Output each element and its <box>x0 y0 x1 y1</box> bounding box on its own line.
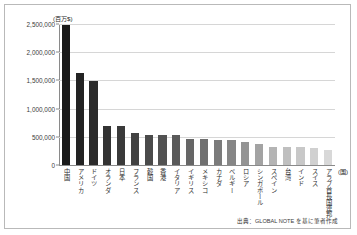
x-axis-category-label: スペイン <box>269 168 276 224</box>
bar <box>172 135 180 165</box>
bar <box>76 73 84 165</box>
x-axis-category-label: オランダ <box>104 168 111 224</box>
bar-slot <box>294 24 308 165</box>
x-axis-label-slot: イタリア <box>169 168 183 224</box>
x-axis-label-slot: 香港 <box>156 168 170 224</box>
bar-slot <box>100 24 114 165</box>
y-axis-tick-labels: 2,500,0002,000,0001,500,0001,000,000500,… <box>5 24 58 166</box>
bar-slot <box>307 24 321 165</box>
x-axis-label-slot: インド <box>294 168 308 224</box>
x-axis-category-label: 韓国 <box>145 168 152 224</box>
bar <box>103 126 111 165</box>
bar-slot <box>169 24 183 165</box>
x-axis-label-slot: アラブ首長国連邦 <box>321 168 335 224</box>
x-axis-category-label: 香港 <box>159 168 166 224</box>
x-axis-category-label: スイス <box>311 168 318 224</box>
source-note: 出典：GLOBAL NOTE を基に筆者作成 <box>237 217 338 225</box>
x-axis-label-slot: ドイツ <box>87 168 101 224</box>
bar-slot <box>225 24 239 165</box>
bar <box>269 147 277 165</box>
bar-slot <box>252 24 266 165</box>
x-axis-category-label: ロシア <box>242 168 249 224</box>
y-axis-tick-label: 1,500,000 <box>27 77 58 84</box>
bar-series <box>59 24 335 165</box>
bar <box>296 147 304 165</box>
chart-frame: (百万$) (国) 2,500,0002,000,0001,500,0001,0… <box>4 4 351 229</box>
x-axis-baseline <box>59 165 335 166</box>
x-axis-category-labels: 中国アメリカドイツオランダ日本フランス韓国香港イタリアイギリスメキシコカナダベル… <box>59 168 335 224</box>
y-axis-tick-label: 2,000,000 <box>27 49 58 56</box>
x-axis-category-label: アラブ首長国連邦 <box>325 168 332 224</box>
bar-slot <box>321 24 335 165</box>
bar <box>324 150 332 165</box>
x-axis-label-slot: 日本 <box>114 168 128 224</box>
bar <box>200 139 208 165</box>
bar <box>131 133 139 165</box>
bar <box>214 140 222 165</box>
bar-slot <box>114 24 128 165</box>
x-axis-category-label: 台湾 <box>283 168 290 224</box>
bar <box>283 147 291 165</box>
x-axis-label-slot: ロシア <box>238 168 252 224</box>
x-axis-category-label: カナダ <box>214 168 221 224</box>
x-axis-label-slot: イギリス <box>183 168 197 224</box>
x-axis-category-label: ベルギー <box>228 168 235 224</box>
x-axis-label-slot: スペイン <box>266 168 280 224</box>
x-axis-label-slot: シンガポール <box>252 168 266 224</box>
bar-slot <box>142 24 156 165</box>
x-axis-label-slot: ベルギー <box>225 168 239 224</box>
x-axis-category-label: ドイツ <box>90 168 97 224</box>
x-axis-category-label: インド <box>297 168 304 224</box>
bar-slot <box>156 24 170 165</box>
x-axis-label-slot: カナダ <box>211 168 225 224</box>
y-axis-tick-label: 1,000,000 <box>27 105 58 112</box>
bar <box>89 81 97 165</box>
x-axis-label-slot: メキシコ <box>197 168 211 224</box>
bar-slot <box>280 24 294 165</box>
x-axis-category-label: 日本 <box>118 168 125 224</box>
bar-slot <box>59 24 73 165</box>
x-axis-label-slot: 韓国 <box>142 168 156 224</box>
bar-slot <box>73 24 87 165</box>
bar <box>241 142 249 165</box>
bar <box>62 25 70 165</box>
bar <box>158 135 166 165</box>
bar-slot <box>211 24 225 165</box>
bar-slot <box>197 24 211 165</box>
plot-area <box>59 24 335 166</box>
bar-slot <box>266 24 280 165</box>
bar <box>186 139 194 165</box>
x-axis-label-slot: スイス <box>307 168 321 224</box>
x-axis-label-slot: 中国 <box>59 168 73 224</box>
bar <box>117 126 125 165</box>
y-axis-tick-label: 2,500,000 <box>27 21 58 28</box>
bar-slot <box>183 24 197 165</box>
x-axis-category-label: シンガポール <box>256 168 263 224</box>
bar <box>227 140 235 165</box>
x-axis-category-label: アメリカ <box>76 168 83 224</box>
bar-slot <box>128 24 142 165</box>
x-axis-category-label: 中国 <box>63 168 70 224</box>
bar-slot <box>87 24 101 165</box>
x-axis-label-slot: アメリカ <box>73 168 87 224</box>
x-axis-category-label: イタリア <box>173 168 180 224</box>
x-axis-label-slot: フランス <box>128 168 142 224</box>
bar <box>255 144 263 165</box>
x-axis-category-label: フランス <box>131 168 138 224</box>
x-axis-category-label: メキシコ <box>200 168 207 224</box>
y-axis-tick-label: 500,000 <box>32 133 58 140</box>
x-axis-category-label: イギリス <box>187 168 194 224</box>
x-axis-label-slot: オランダ <box>100 168 114 224</box>
bar <box>145 135 153 165</box>
x-axis-unit-label: (国) <box>338 167 348 176</box>
x-axis-label-slot: 台湾 <box>280 168 294 224</box>
bar-slot <box>238 24 252 165</box>
bar <box>310 148 318 165</box>
